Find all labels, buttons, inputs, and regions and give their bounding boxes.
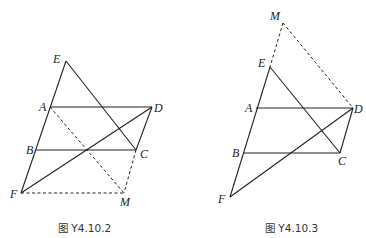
label-D: D [353, 102, 363, 116]
caption: 图 Y4.10.2 [58, 222, 111, 234]
label-C: C [140, 147, 149, 161]
label-C: C [338, 154, 347, 168]
segment-ME [270, 23, 283, 67]
label-D: D [153, 101, 163, 115]
label-B: B [26, 143, 34, 157]
segment-CM [124, 150, 136, 193]
label-F: F [217, 192, 226, 206]
segment-EF [21, 61, 66, 193]
figure-y4-10-3: M E A D B C F 图 Y4.10.3 [217, 9, 363, 234]
label-M: M [119, 195, 131, 209]
label-B: B [232, 146, 240, 160]
segment-DC [136, 107, 152, 150]
segment-EC [66, 61, 136, 150]
label-F: F [9, 187, 18, 201]
label-E: E [52, 52, 61, 66]
geometry-diagrams: E A D B C F M 图 Y4.10.2 M E A D B C F 图 … [0, 0, 366, 238]
label-A: A [38, 100, 47, 114]
segment-EF [230, 67, 270, 197]
figure-y4-10-2: E A D B C F M 图 Y4.10.2 [9, 52, 163, 234]
label-E: E [257, 56, 266, 70]
caption: 图 Y4.10.3 [265, 222, 318, 234]
segment-DC [340, 108, 353, 153]
label-A: A [244, 101, 253, 115]
label-M: M [269, 9, 281, 23]
